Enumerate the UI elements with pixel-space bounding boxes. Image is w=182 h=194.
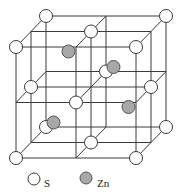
s-legend-icon [28,173,40,185]
zn-legend-icon [80,172,92,184]
legend-label-zn: Zn [97,177,109,189]
s-atom-icon [85,25,98,38]
s-atom-icon [10,41,23,54]
s-atom-icon [40,10,53,23]
legend-label-s: S [44,177,50,189]
s-atom-icon [160,10,173,23]
s-atom-icon [10,152,23,165]
s-atom-icon [130,41,143,54]
s-atom-icon [85,136,98,149]
s-atom-icon [160,121,173,134]
s-atom-icon [25,81,38,94]
zn-atom-icon [47,116,60,129]
legend [28,172,92,185]
zn-atom-icon [62,45,75,58]
s-atom-icon [145,81,158,94]
zn-atom-icon [107,61,120,74]
s-atom-icon [70,96,83,109]
s-atom-icon [130,152,143,165]
zn-atom-icon [122,101,135,114]
unit-cell-diagram [0,0,182,194]
